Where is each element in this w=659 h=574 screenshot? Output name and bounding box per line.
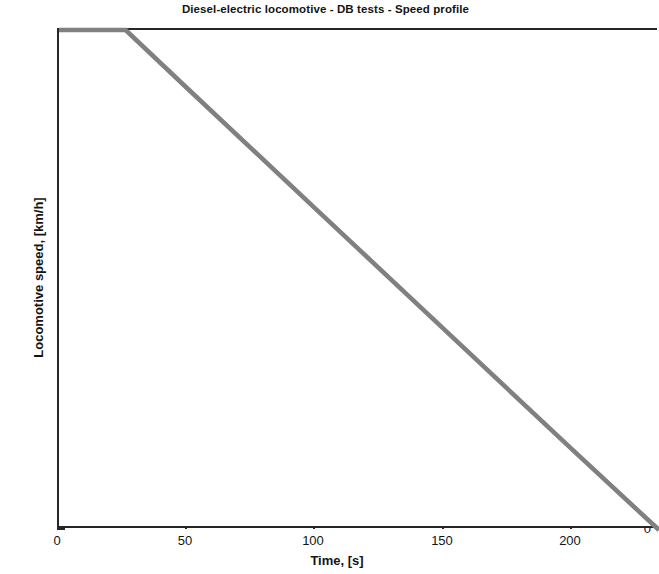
x-tick-label-50: 50 (155, 533, 215, 548)
chart-title: Diesel-electric locomotive - DB tests - … (0, 3, 651, 15)
plot-area (57, 28, 657, 528)
x-tick-label-100: 100 (283, 533, 343, 548)
x-tick-label-200: 200 (540, 533, 600, 548)
speed-curve (59, 30, 659, 530)
x-tick-label-150: 150 (412, 533, 472, 548)
x-tick-label-0: 0 (27, 533, 87, 548)
speed-curve-svg (59, 30, 659, 530)
x-axis-label: Time, [s] (57, 553, 617, 568)
y-axis-label: Locomotive speed, [km/h] (31, 148, 46, 408)
